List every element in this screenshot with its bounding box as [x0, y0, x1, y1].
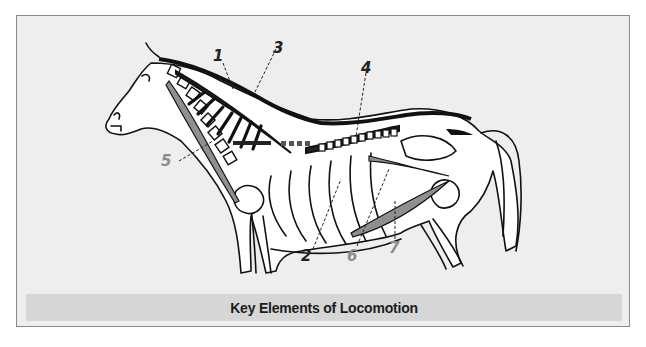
diagram-frame: 1 3 4 5 2 6 7 Key Elements of Locomotion — [16, 15, 630, 327]
figure-caption: Key Elements of Locomotion — [230, 300, 418, 316]
caption-bar: Key Elements of Locomotion — [26, 294, 622, 321]
label-6: 6 — [347, 247, 357, 265]
label-2: 2 — [301, 247, 311, 265]
label-5: 5 — [161, 152, 171, 170]
label-7: 7 — [389, 239, 400, 257]
label-1: 1 — [213, 47, 223, 65]
horse-ear — [146, 43, 159, 57]
label-4: 4 — [360, 59, 371, 77]
thoracic-bar — [233, 141, 271, 145]
label-3: 3 — [273, 39, 283, 57]
